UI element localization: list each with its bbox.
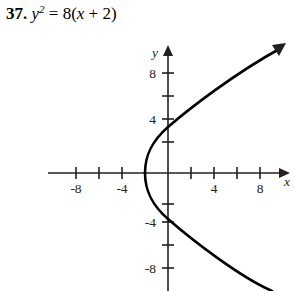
equation-equals-and-coefficient: = 8( — [49, 4, 77, 23]
problem-number: 37. — [6, 4, 27, 23]
x-tick-label--8: -8 — [70, 181, 81, 196]
y-axis-arrowhead — [163, 45, 173, 56]
parabola-upper-branch — [145, 48, 281, 173]
x-axis-label: x — [283, 174, 290, 189]
y-tick-label-8: 8 — [149, 66, 156, 81]
equation-lhs-variable: y — [32, 4, 40, 23]
coordinate-graph: -8 -4 4 8 8 4 -4 -8 y x — [0, 34, 294, 291]
parabola-curve — [145, 43, 286, 291]
parabola-upper-arrowhead — [272, 43, 286, 56]
y-axis-label: y — [150, 45, 158, 60]
y-tick-label--4: -4 — [145, 215, 156, 230]
y-tick-label--8: -8 — [145, 261, 156, 276]
x-axis — [48, 167, 290, 179]
parabola-lower-branch — [145, 173, 272, 291]
y-tick-label-4: 4 — [149, 112, 156, 127]
figure-page: 37. y2 = 8(x + 2) — [0, 0, 294, 291]
equation-rhs-tail: + 2) — [89, 4, 117, 23]
x-tick-label-8: 8 — [257, 181, 264, 196]
problem-header: 37. y2 = 8(x + 2) — [6, 4, 117, 22]
x-tick-label--4: -4 — [116, 181, 127, 196]
x-tick-label-4: 4 — [211, 181, 218, 196]
y-axis — [162, 45, 174, 291]
